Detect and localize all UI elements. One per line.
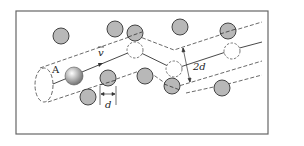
collision-diagram: A v d 2d [0, 0, 304, 146]
velocity-label: v [98, 47, 104, 58]
molecule [127, 25, 143, 41]
cylinder-diameter-label: 2d [192, 61, 206, 72]
molecule [214, 80, 230, 96]
molecule [164, 78, 180, 94]
molecule [137, 68, 153, 84]
dashed-molecule [166, 61, 182, 77]
particle-a [65, 67, 83, 85]
molecules [53, 19, 236, 105]
particle-a-label: A [51, 64, 60, 75]
dashed-molecule [127, 42, 143, 58]
molecule [53, 28, 69, 44]
molecule [107, 21, 123, 37]
diameter-label: d [105, 99, 111, 110]
molecule [80, 89, 96, 105]
dashed-molecule [224, 43, 240, 59]
molecule [220, 23, 236, 39]
cylinder-end-ellipse [35, 68, 53, 102]
cylinder-diameter-dimension [182, 48, 191, 82]
molecule [172, 19, 188, 35]
velocity-arrowhead [98, 63, 103, 67]
molecule [100, 70, 116, 86]
